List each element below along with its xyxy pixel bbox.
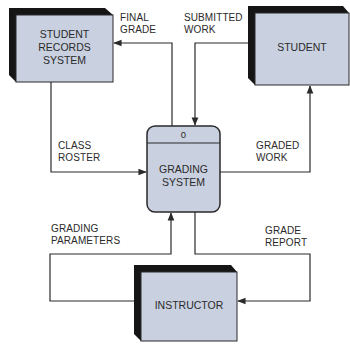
grade-report-label: GRADE REPORT bbox=[265, 225, 307, 249]
student-label: STUDENT bbox=[255, 41, 349, 54]
grading-system-label-line1: GRADING bbox=[147, 163, 220, 176]
process-id: 0 bbox=[147, 128, 220, 141]
submitted-work-label-line2: WORK bbox=[184, 24, 243, 36]
student-records-label-line3: SYSTEM bbox=[16, 54, 113, 67]
student-records-label: STUDENT RECORDS SYSTEM bbox=[16, 28, 113, 67]
instructor-label: INSTRUCTOR bbox=[141, 299, 237, 312]
grading-parameters-label: GRADING PARAMETERS bbox=[51, 223, 120, 247]
student-records-label-line2: RECORDS bbox=[16, 41, 113, 54]
student-records-label-line1: STUDENT bbox=[16, 28, 113, 41]
final-grade-label-line2: GRADE bbox=[120, 24, 156, 36]
grade-report-label-line1: GRADE bbox=[265, 225, 307, 237]
grading-parameters-label-line2: PARAMETERS bbox=[51, 235, 120, 247]
submitted-work-label: SUBMITTED WORK bbox=[184, 12, 243, 36]
final-grade-label-line1: FINAL bbox=[120, 12, 156, 24]
class-roster-label-line1: CLASS bbox=[58, 140, 100, 152]
flow-final-grade bbox=[114, 43, 172, 126]
graded-work-label: GRADED WORK bbox=[256, 140, 299, 164]
submitted-work-label-line1: SUBMITTED bbox=[184, 12, 243, 24]
class-roster-label-line2: ROSTER bbox=[58, 152, 100, 164]
grade-report-label-line2: REPORT bbox=[265, 237, 307, 249]
flow-submitted-work bbox=[195, 43, 248, 125]
grading-system-label: GRADING SYSTEM bbox=[147, 163, 220, 189]
graded-work-label-line1: GRADED bbox=[256, 140, 299, 152]
final-grade-label: FINAL GRADE bbox=[120, 12, 156, 36]
class-roster-label: CLASS ROSTER bbox=[58, 140, 100, 164]
grading-parameters-label-line1: GRADING bbox=[51, 223, 120, 235]
graded-work-label-line2: WORK bbox=[256, 152, 299, 164]
grading-system-label-line2: SYSTEM bbox=[147, 176, 220, 189]
